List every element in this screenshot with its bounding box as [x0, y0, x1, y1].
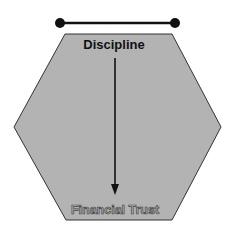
connector-right-dot [170, 18, 180, 28]
top-connector [55, 18, 180, 28]
connector-left-dot [55, 18, 65, 28]
bottom-label: Financial Trust [71, 203, 160, 217]
hexagon-shape [14, 34, 221, 220]
diagram-canvas: Discipline Financial Trust [0, 0, 234, 232]
top-label: Discipline [83, 37, 144, 52]
